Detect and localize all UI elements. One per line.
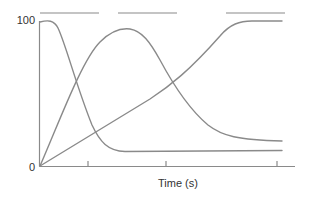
x-axis-title: Time (s): [158, 177, 198, 189]
series-decreasing-sigmoid: [40, 21, 282, 152]
series-transient-peak: [40, 29, 282, 166]
y-max-label: 100: [17, 14, 35, 26]
y-min-label: 0: [29, 161, 35, 173]
series-linear-rise: [40, 21, 282, 166]
line-chart: 100 0 Time (s): [0, 0, 310, 201]
